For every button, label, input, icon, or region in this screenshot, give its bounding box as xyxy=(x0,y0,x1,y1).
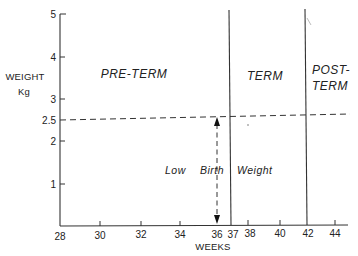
y-axis-title: WEIGHT Kg xyxy=(5,71,44,97)
y-tick-2-5: 2.5 xyxy=(42,115,56,126)
low-birth-weight-diagram: 5 4 3 2.5 2 1 WEIGHT Kg 28 30 32 34 36 3… xyxy=(0,0,358,256)
post-term-start-line xyxy=(305,9,307,225)
region-label-post-term-2: TERM xyxy=(312,79,348,93)
arrow-down-icon xyxy=(214,215,220,224)
speck-mark xyxy=(307,18,311,25)
y-tick-4: 4 xyxy=(50,52,56,63)
x-tick-40: 40 xyxy=(274,228,286,239)
x-tick-38: 38 xyxy=(244,228,256,239)
y-tick-3: 3 xyxy=(50,94,56,105)
y-axis-label-unit: Kg xyxy=(18,86,30,97)
annotation-weight: Weight xyxy=(237,164,273,176)
x-axis-line xyxy=(60,225,348,226)
region-label-pre-term: PRE-TERM xyxy=(101,67,168,81)
x-tick-44: 44 xyxy=(329,228,341,239)
region-label-term: TERM xyxy=(247,69,283,83)
annotation-birth: Birth xyxy=(200,164,224,176)
y-axis-ticks xyxy=(60,14,66,184)
x-tick-34: 34 xyxy=(174,229,186,240)
term-start-line xyxy=(229,10,231,225)
x-tick-42: 42 xyxy=(302,228,314,239)
y-tick-2: 2 xyxy=(50,136,56,147)
y-axis-label-weight: WEIGHT xyxy=(5,71,44,82)
region-label-post-term-1: POST- xyxy=(312,63,350,77)
x-tick-labels: 28 30 32 34 36 37 38 40 42 44 xyxy=(54,228,341,242)
x-tick-37: 37 xyxy=(227,229,239,240)
y-tick-1: 1 xyxy=(50,179,56,190)
y-tick-labels: 5 4 3 2.5 2 1 xyxy=(42,9,56,190)
x-tick-30: 30 xyxy=(94,230,106,241)
region-boundaries xyxy=(229,9,307,225)
annotation-low: Low xyxy=(165,164,187,176)
arrow-up-icon xyxy=(214,117,220,126)
x-tick-28: 28 xyxy=(54,231,66,242)
x-tick-32: 32 xyxy=(135,229,147,240)
y-tick-5: 5 xyxy=(50,9,56,20)
speck xyxy=(247,124,248,125)
x-axis-label: WEEKS xyxy=(195,241,230,252)
x-tick-36: 36 xyxy=(211,229,223,240)
